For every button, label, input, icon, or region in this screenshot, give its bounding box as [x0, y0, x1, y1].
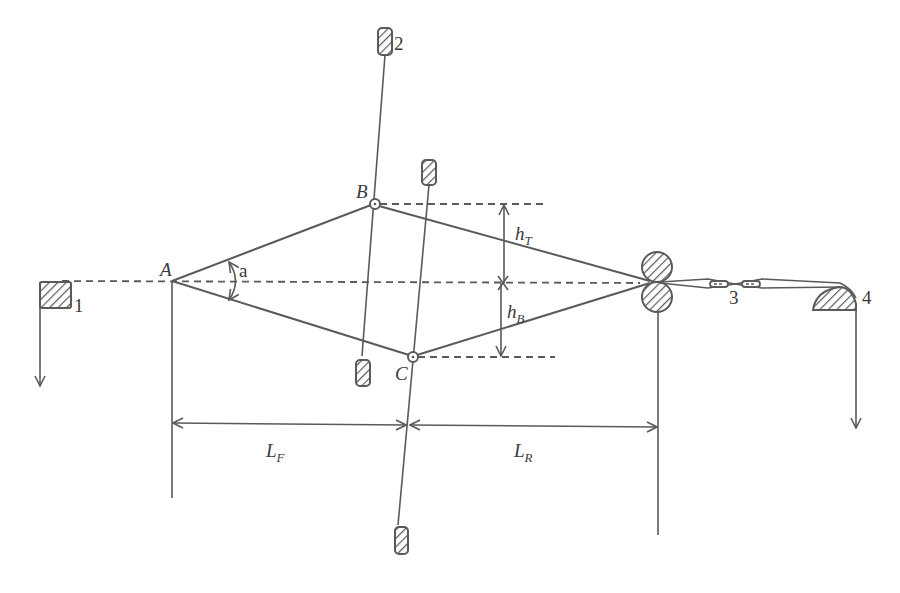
- component-4: [813, 287, 856, 428]
- component-1: [40, 282, 71, 386]
- component-1-label: 1: [74, 295, 84, 316]
- component-2-label: 2: [394, 33, 404, 54]
- point-c-label: C: [395, 363, 408, 384]
- lf-label: LF: [265, 440, 286, 465]
- diagram-canvas: 2 B C A a hT hB 1: [0, 0, 900, 593]
- point-a-label: A: [158, 259, 172, 280]
- lr-label: LR: [513, 440, 533, 465]
- lf-dimension: [173, 423, 406, 425]
- centerline: [62, 281, 640, 283]
- hb-label: hB: [507, 301, 525, 326]
- point-b-label: B: [356, 181, 368, 202]
- component-3-label: 3: [729, 287, 739, 308]
- lr-dimension: [410, 425, 657, 427]
- angle-label: a: [239, 260, 248, 281]
- component-4-label: 4: [862, 287, 872, 308]
- nip-rollers: [642, 252, 672, 535]
